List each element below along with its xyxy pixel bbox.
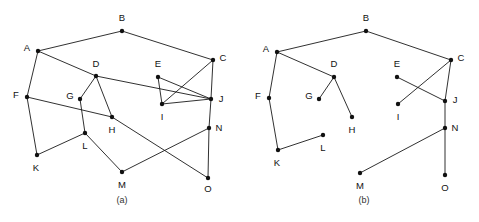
panel-b-edge-layer	[269, 31, 451, 175]
panel-a-caption: (a)	[117, 195, 128, 205]
graph-edge-I-J	[162, 99, 211, 104]
graph-vertex-label-D: D	[93, 58, 100, 69]
graph-edge-N-O	[208, 128, 209, 178]
graph-edge-A-F	[27, 51, 38, 97]
graph-vertex-M	[358, 171, 362, 175]
graph-edge-N-M	[360, 128, 445, 173]
graph-edge-M-N	[122, 128, 209, 172]
graph-vertex-label-N: N	[216, 122, 223, 133]
graph-vertex-L	[83, 131, 87, 135]
graph-vertex-F	[25, 95, 29, 99]
graph-vertex-label-E: E	[155, 58, 161, 69]
graph-edge-J-N	[209, 99, 211, 128]
graph-vertex-B	[120, 29, 124, 33]
graph-vertex-O	[443, 173, 447, 177]
graph-edge-C-I	[398, 60, 451, 104]
graph-vertex-label-B: B	[119, 12, 125, 23]
panel-b-vertex-layer: ABCDEFGHIJKLMNO	[255, 12, 464, 193]
graph-edge-K-L	[37, 133, 85, 155]
graph-edge-D-J	[96, 76, 211, 99]
graph-edge-C-J	[211, 60, 213, 99]
graph-vertex-label-J: J	[219, 93, 224, 104]
graph-vertex-D	[332, 75, 336, 79]
graph-vertex-label-O: O	[441, 182, 448, 193]
graph-vertex-C	[449, 58, 453, 62]
graph-vertex-L	[321, 133, 325, 137]
graph-vertex-N	[443, 126, 447, 130]
graph-vertex-label-L: L	[320, 142, 325, 153]
graph-vertex-label-M: M	[356, 180, 364, 191]
graph-vertex-label-K: K	[274, 157, 281, 168]
graph-vertex-label-I: I	[161, 111, 164, 122]
graph-edge-A-B	[277, 31, 366, 52]
graph-vertex-label-N: N	[452, 122, 459, 133]
graph-vertex-G	[78, 97, 82, 101]
graph-vertex-J	[209, 97, 213, 101]
graph-vertex-C	[211, 58, 215, 62]
graph-vertex-label-L: L	[82, 140, 87, 151]
graph-vertex-K	[35, 153, 39, 157]
graph-edge-A-F	[269, 52, 277, 98]
graph-edge-L-M	[85, 133, 122, 172]
graph-edge-F-K	[27, 97, 37, 155]
graph-vertex-label-K: K	[33, 162, 40, 173]
graph-vertex-label-F: F	[255, 90, 261, 101]
panel-a-edge-layer	[27, 31, 213, 178]
graph-edge-K-L	[278, 135, 323, 150]
graph-edge-A-B	[38, 31, 122, 51]
graph-vertex-A	[275, 50, 279, 54]
graph-vertex-label-I: I	[397, 111, 400, 122]
graph-vertex-F	[267, 96, 271, 100]
graph-vertex-J	[443, 99, 447, 103]
graph-figure-svg: ABCDEFGHIJKLMNO (a) ABCDEFGHIJKLMNO (b)	[0, 0, 479, 222]
graph-vertex-E	[395, 75, 399, 79]
graph-vertex-label-G: G	[66, 90, 73, 101]
graph-vertex-K	[276, 148, 280, 152]
graph-edge-D-G	[80, 76, 96, 99]
graph-vertex-label-D: D	[331, 58, 338, 69]
graph-vertex-G	[317, 97, 321, 101]
graph-vertex-label-J: J	[453, 94, 458, 105]
graph-vertex-label-G: G	[305, 90, 312, 101]
graph-vertex-label-F: F	[13, 89, 19, 100]
graph-edge-G-L	[80, 99, 85, 133]
panel-b-graph: ABCDEFGHIJKLMNO (b)	[255, 12, 464, 206]
graph-vertex-H	[350, 115, 354, 119]
graph-edge-D-H	[96, 76, 112, 117]
graph-vertex-label-C: C	[458, 52, 465, 63]
graph-edge-A-D	[38, 51, 96, 76]
graph-vertex-label-H: H	[109, 124, 116, 135]
graph-edge-H-O	[112, 117, 208, 178]
graph-edge-C-J	[445, 60, 451, 101]
graph-vertex-label-M: M	[118, 179, 126, 190]
graph-edge-D-H	[334, 77, 352, 117]
graph-edge-F-K	[269, 98, 278, 150]
graph-vertex-label-C: C	[220, 52, 227, 63]
graph-vertex-A	[36, 49, 40, 53]
panel-a-vertex-layer: ABCDEFGHIJKLMNO	[13, 12, 226, 194]
graph-vertex-H	[110, 115, 114, 119]
graph-vertex-label-H: H	[349, 124, 356, 135]
graph-vertex-label-A: A	[263, 43, 270, 54]
panel-a-graph: ABCDEFGHIJKLMNO (a)	[13, 12, 226, 206]
graph-edge-E-J	[158, 77, 211, 99]
graph-vertex-I	[160, 102, 164, 106]
graph-vertex-E	[156, 75, 160, 79]
graph-edge-E-J	[397, 77, 445, 101]
panel-b-caption: (b)	[359, 195, 370, 205]
graph-vertex-O	[206, 176, 210, 180]
graph-edge-B-C	[122, 31, 213, 60]
graph-vertex-label-B: B	[363, 12, 369, 23]
graph-vertex-label-E: E	[394, 58, 400, 69]
graph-vertex-label-A: A	[24, 42, 31, 53]
graph-edge-D-G	[319, 77, 334, 99]
figure-container: ABCDEFGHIJKLMNO (a) ABCDEFGHIJKLMNO (b)	[0, 0, 479, 222]
graph-edge-E-I	[158, 77, 162, 104]
graph-vertex-M	[120, 170, 124, 174]
graph-vertex-I	[396, 102, 400, 106]
graph-vertex-N	[207, 126, 211, 130]
graph-edge-A-D	[277, 52, 334, 77]
graph-edge-B-C	[366, 31, 451, 60]
graph-vertex-label-O: O	[204, 183, 211, 194]
graph-vertex-B	[364, 29, 368, 33]
